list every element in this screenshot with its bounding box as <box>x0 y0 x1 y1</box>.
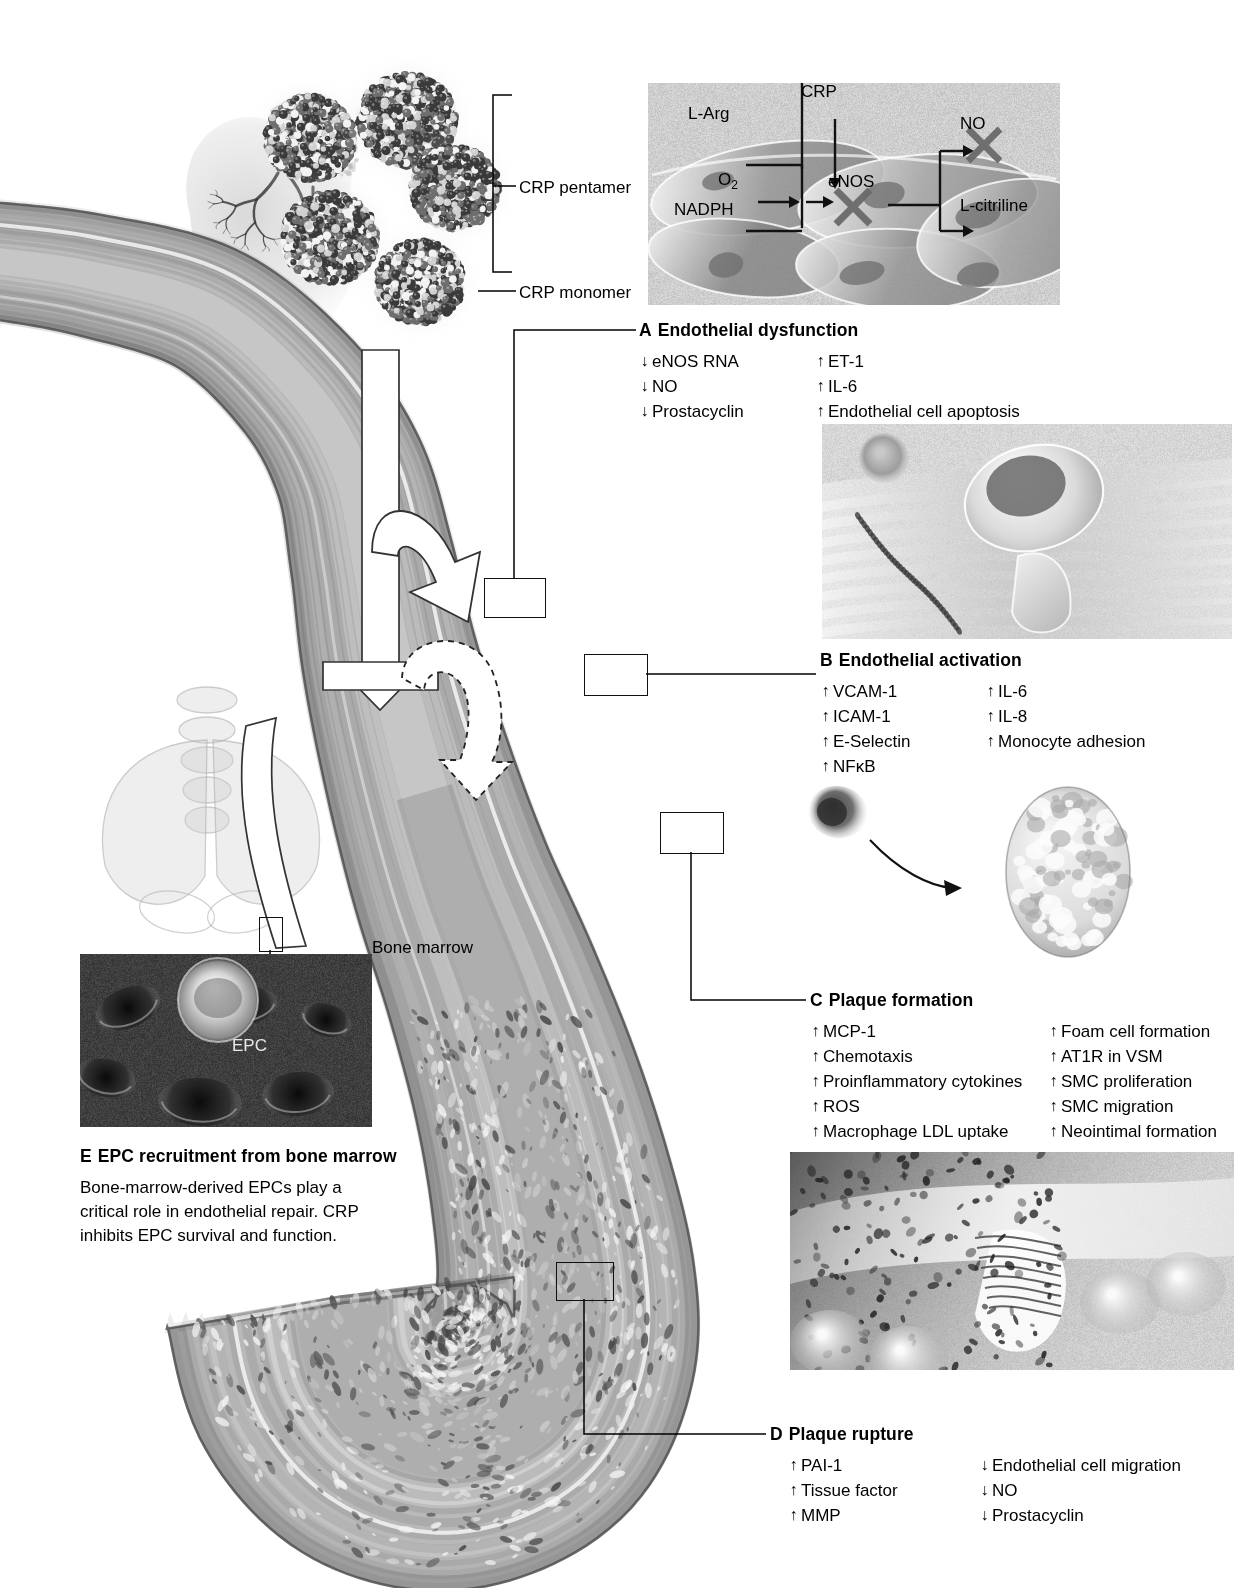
panel-d-title-text: Plaque rupture <box>789 1424 914 1444</box>
list-item-label: Monocyte adhesion <box>998 732 1145 751</box>
list-item-label: Endothelial cell migration <box>992 1456 1181 1475</box>
panel-e-title-text: EPC recruitment from bone marrow <box>98 1146 397 1166</box>
arrow-up-icon: ↑ <box>810 1043 821 1068</box>
panel-a-right-list: ↑ET-1 ↑IL-6 ↑Endothelial cell apoptosis <box>815 349 1020 424</box>
arrow-up-icon: ↑ <box>810 1068 821 1093</box>
callout-box-b <box>584 654 648 696</box>
plaque-rupture-micrograph <box>790 1152 1234 1370</box>
list-item-label: AT1R in VSM <box>1061 1047 1163 1066</box>
label-crp-inset: CRP <box>801 82 837 102</box>
arrow-up-icon: ↑ <box>985 678 996 703</box>
list-item: ↓Prostacyclin <box>979 1503 1181 1528</box>
list-item: ↑MMP <box>788 1503 979 1528</box>
list-item: ↑Monocyte adhesion <box>985 729 1145 754</box>
label-no: NO <box>960 114 986 134</box>
panel-d-letter: D <box>770 1424 783 1444</box>
list-item: ↑MCP-1 <box>810 1019 1048 1044</box>
panel-d-right-list: ↓Endothelial cell migration ↓NO ↓Prostac… <box>979 1453 1181 1528</box>
list-item: ↓Prostacyclin <box>639 399 815 424</box>
label-nadph: NADPH <box>674 200 734 220</box>
list-item-label: Proinflammatory cytokines <box>823 1072 1022 1091</box>
panel-e-title: EEPC recruitment from bone marrow <box>80 1146 410 1167</box>
arrow-up-icon: ↑ <box>810 1118 821 1143</box>
list-item-label: IL-8 <box>998 707 1027 726</box>
label-crp-monomer: CRP monomer <box>519 283 631 303</box>
arrow-down-icon: ↓ <box>639 398 650 423</box>
arrow-up-icon: ↑ <box>815 398 826 423</box>
panel-e: EEPC recruitment from bone marrow Bone-m… <box>80 1146 410 1248</box>
list-item: ↑IL-8 <box>985 704 1145 729</box>
arrow-up-icon: ↑ <box>1048 1118 1059 1143</box>
panel-c-title: CPlaque formation <box>810 990 1217 1011</box>
list-item: ↑Endothelial cell apoptosis <box>815 399 1020 424</box>
panel-c-title-text: Plaque formation <box>829 990 974 1010</box>
list-item-label: Tissue factor <box>801 1481 898 1500</box>
list-item: ↑Chemotaxis <box>810 1044 1048 1069</box>
label-l-citriline: L-citriline <box>960 196 1028 216</box>
arrow-up-icon: ↑ <box>1048 1018 1059 1043</box>
panel-b-title-text: Endothelial activation <box>839 650 1022 670</box>
panel-d: DPlaque rupture ↑PAI-1 ↑Tissue factor ↑M… <box>770 1424 1181 1528</box>
epc-photo-label: EPC <box>232 1036 267 1056</box>
panel-d-title: DPlaque rupture <box>770 1424 1181 1445</box>
arrow-up-icon: ↑ <box>820 728 831 753</box>
list-item-label: ICAM-1 <box>833 707 891 726</box>
list-item: ↑Neointimal formation <box>1048 1119 1217 1144</box>
list-item-label: Chemotaxis <box>823 1047 913 1066</box>
panel-b-right-list: ↑IL-6 ↑IL-8 ↑Monocyte adhesion <box>985 679 1145 779</box>
list-item-label: PAI-1 <box>801 1456 842 1475</box>
arrow-down-icon: ↓ <box>639 348 650 373</box>
list-item-label: Endothelial cell apoptosis <box>828 402 1020 421</box>
list-item-label: Macrophage LDL uptake <box>823 1122 1009 1141</box>
arrow-down-icon: ↓ <box>639 373 650 398</box>
list-item-label: Prostacyclin <box>992 1506 1084 1525</box>
arrow-up-icon: ↑ <box>815 373 826 398</box>
panel-a: AEndothelial dysfunction ↓eNOS RNA ↓NO ↓… <box>639 320 1020 424</box>
label-l-arg: L-Arg <box>688 104 730 124</box>
epc-micrograph: EPC <box>80 954 372 1127</box>
list-item-label: VCAM-1 <box>833 682 897 701</box>
panel-a-title: AEndothelial dysfunction <box>639 320 1020 341</box>
list-item-label: ROS <box>823 1097 860 1116</box>
arrow-down-icon: ↓ <box>979 1477 990 1502</box>
list-item: ↑ICAM-1 <box>820 704 985 729</box>
arrow-down-icon: ↓ <box>979 1502 990 1527</box>
callout-box-e <box>259 917 283 952</box>
list-item-label: NFκB <box>833 757 876 776</box>
list-item: ↑SMC migration <box>1048 1094 1217 1119</box>
endothelial-activation-micrograph <box>822 424 1232 639</box>
panel-b-title: BEndothelial activation <box>820 650 1145 671</box>
panel-b: BEndothelial activation ↑VCAM-1 ↑ICAM-1 … <box>820 650 1145 779</box>
list-item: ↑E-Selectin <box>820 729 985 754</box>
list-item-label: IL-6 <box>998 682 1027 701</box>
list-item-label: SMC migration <box>1061 1097 1173 1116</box>
panel-e-body: Bone-marrow-derived EPCs play a critical… <box>80 1176 380 1248</box>
list-item: ↓NO <box>979 1478 1181 1503</box>
arrow-up-icon: ↑ <box>788 1452 799 1477</box>
arrow-up-icon: ↑ <box>810 1018 821 1043</box>
arrow-up-icon: ↑ <box>788 1502 799 1527</box>
list-item: ↑Macrophage LDL uptake <box>810 1119 1048 1144</box>
label-bone-marrow: Bone marrow <box>372 938 473 958</box>
list-item: ↑Tissue factor <box>788 1478 979 1503</box>
figure-root: L-Arg CRP O2 NADPH eNOS NO L-citriline C… <box>0 0 1248 1588</box>
list-item: ↑SMC proliferation <box>1048 1069 1217 1094</box>
panel-d-left-list: ↑PAI-1 ↑Tissue factor ↑MMP <box>788 1453 979 1528</box>
list-item: ↑VCAM-1 <box>820 679 985 704</box>
list-item-label: E-Selectin <box>833 732 910 751</box>
arrow-up-icon: ↑ <box>985 703 996 728</box>
list-item-label: Neointimal formation <box>1061 1122 1217 1141</box>
list-item: ↑Proinflammatory cytokines <box>810 1069 1048 1094</box>
label-crp-pentamer: CRP pentamer <box>519 178 631 198</box>
arrow-up-icon: ↑ <box>985 728 996 753</box>
arrow-up-icon: ↑ <box>820 703 831 728</box>
list-item: ↓Endothelial cell migration <box>979 1453 1181 1478</box>
list-item: ↑IL-6 <box>985 679 1145 704</box>
list-item: ↑AT1R in VSM <box>1048 1044 1217 1069</box>
panel-b-letter: B <box>820 650 833 670</box>
list-item: ↑ROS <box>810 1094 1048 1119</box>
panel-c-letter: C <box>810 990 823 1010</box>
list-item-label: Foam cell formation <box>1061 1022 1210 1041</box>
arrow-up-icon: ↑ <box>810 1093 821 1118</box>
arrow-up-icon: ↑ <box>1048 1093 1059 1118</box>
